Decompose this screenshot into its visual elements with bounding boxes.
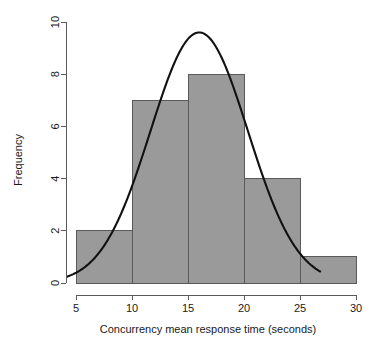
y-axis-tick-label: 0	[49, 280, 61, 286]
histogram-bar	[244, 179, 300, 283]
x-axis-tick-label: 25	[294, 302, 306, 314]
histogram-chart: 0246810 51015202530 Concurrency mean res…	[0, 0, 381, 343]
histogram-bar	[188, 74, 244, 283]
histogram-bar	[132, 100, 188, 283]
x-axis-tick-label: 10	[126, 302, 138, 314]
histogram-bar	[76, 231, 132, 283]
y-axis-title: Frequency	[12, 134, 24, 186]
y-axis-tick-label: 2	[49, 228, 61, 234]
y-axis-tick-label: 6	[49, 123, 61, 129]
y-axis-tick-label: 8	[49, 71, 61, 77]
x-axis-title: Concurrency mean response time (seconds)	[100, 323, 316, 335]
y-axis-tick-label: 4	[49, 176, 61, 182]
plot-area: 0246810 51015202530 Concurrency mean res…	[0, 0, 381, 343]
x-axis-tick-label: 20	[238, 302, 250, 314]
histogram-bar	[300, 257, 356, 283]
y-axis-tick-label: 10	[49, 16, 61, 28]
x-axis-tick-label: 5	[73, 302, 79, 314]
x-axis-tick-label: 15	[182, 302, 194, 314]
x-axis-tick-label: 30	[350, 302, 362, 314]
